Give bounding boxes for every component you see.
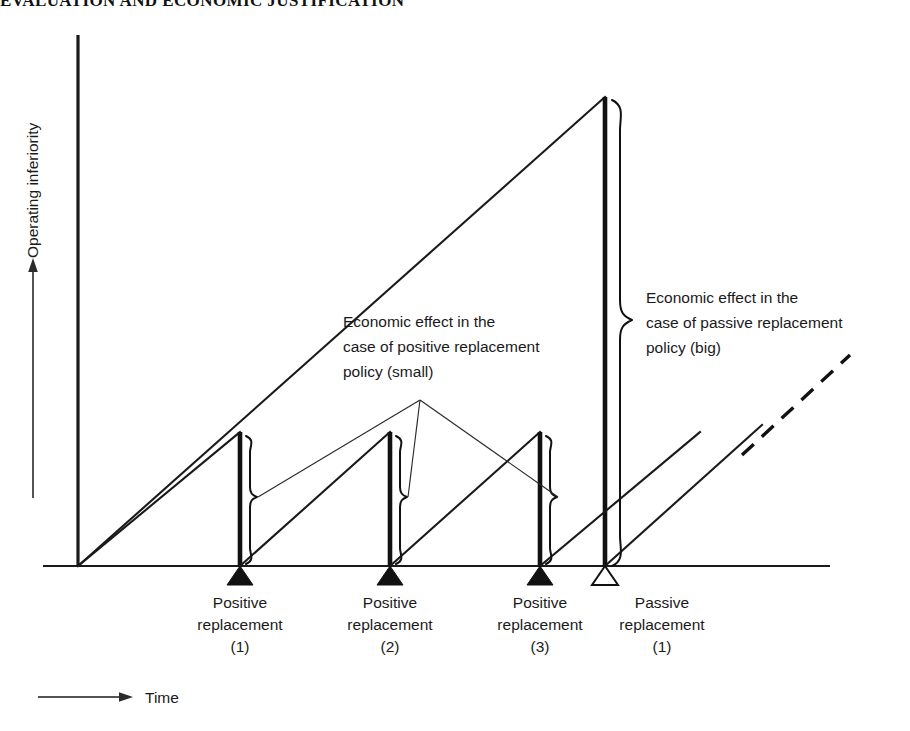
marker-passive-replacement-1 bbox=[592, 566, 618, 585]
leader-to-brace-2 bbox=[408, 400, 420, 497]
annotation-passive-line-1: Economic effect in the bbox=[646, 289, 798, 306]
series-passive-replacement bbox=[78, 97, 605, 566]
positive-rise-3 bbox=[390, 432, 540, 566]
tick-label-3-line-1: Positive bbox=[513, 594, 567, 611]
dashed-continuation-group bbox=[742, 355, 850, 455]
tick-label-2-line-2: replacement bbox=[347, 616, 433, 633]
y-axis-label-group: Operating inferiority bbox=[24, 122, 41, 498]
annotation-passive-effect: Economic effect in the case of passive r… bbox=[646, 289, 843, 356]
positive-rise-2 bbox=[240, 432, 390, 566]
tick-label-4-line-2: replacement bbox=[619, 616, 705, 633]
tick-label-4-line-3: (1) bbox=[653, 638, 672, 655]
brace-positive-2 bbox=[396, 436, 407, 564]
y-axis-arrow-head bbox=[28, 258, 38, 272]
leader-lines-positive bbox=[258, 400, 558, 497]
tick-label-3-line-2: replacement bbox=[497, 616, 583, 633]
annotation-positive-line-1: Economic effect in the bbox=[343, 313, 495, 330]
annotation-passive-line-3: policy (big) bbox=[646, 339, 721, 356]
annotation-passive-line-2: case of passive replacement bbox=[646, 314, 843, 331]
tick-label-1-line-3: (1) bbox=[231, 638, 250, 655]
leader-to-brace-3 bbox=[420, 400, 558, 497]
annotation-positive-line-2: case of positive replacement bbox=[343, 338, 540, 355]
x-axis-arrow-head bbox=[119, 692, 133, 702]
annotation-positive-line-3: policy (small) bbox=[343, 363, 433, 380]
brace-positive-1 bbox=[246, 436, 257, 564]
tick-label-1-line-1: Positive bbox=[213, 594, 267, 611]
y-axis-label: Operating inferiority bbox=[24, 122, 41, 258]
tick-label-1-line-2: replacement bbox=[197, 616, 283, 633]
x-axis-markers bbox=[227, 566, 618, 585]
tick-label-2-line-3: (2) bbox=[381, 638, 400, 655]
marker-positive-replacement-1 bbox=[227, 566, 253, 585]
page-canvas: EVALUATION AND ECONOMIC JUSTIFICATION Op… bbox=[0, 0, 910, 731]
positive-rise-1 bbox=[78, 432, 240, 566]
figure-sawtooth-replacement-policy: Operating inferiority Time bbox=[0, 0, 910, 731]
x-axis-tick-labels: Positive replacement (1) Positive replac… bbox=[197, 594, 705, 655]
x-axis-label: Time bbox=[145, 689, 179, 706]
brace-positive-3 bbox=[546, 436, 557, 564]
x-axis-label-group: Time bbox=[38, 689, 179, 706]
marker-positive-replacement-3 bbox=[527, 566, 553, 585]
annotation-positive-effect: Economic effect in the case of positive … bbox=[343, 313, 540, 380]
tick-label-2-line-1: Positive bbox=[363, 594, 417, 611]
dashed-continuation-line bbox=[742, 355, 850, 455]
tick-label-3-line-3: (3) bbox=[531, 638, 550, 655]
leader-to-brace-1 bbox=[258, 400, 420, 497]
passive-rising-line bbox=[78, 97, 605, 566]
series-positive-replacement bbox=[78, 425, 762, 566]
tick-label-4-line-1: Passive bbox=[635, 594, 689, 611]
marker-positive-replacement-2 bbox=[377, 566, 403, 585]
